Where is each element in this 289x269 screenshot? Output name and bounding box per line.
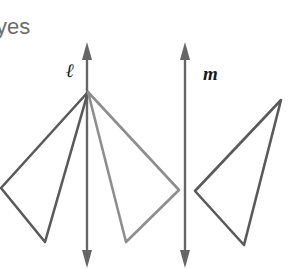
triangle-reflection-l bbox=[88, 92, 179, 242]
reflection-diagram: yes ℓ m bbox=[0, 0, 289, 269]
triangle-reflection-m bbox=[195, 100, 281, 245]
arrow-down-icon bbox=[180, 250, 190, 268]
arrow-up-icon bbox=[180, 42, 190, 60]
diagram-canvas bbox=[0, 0, 289, 269]
arrow-down-icon bbox=[82, 250, 92, 268]
line-l-label: ℓ bbox=[66, 60, 74, 82]
line-l bbox=[82, 42, 92, 268]
line-m bbox=[180, 42, 190, 268]
arrow-up-icon bbox=[82, 42, 92, 60]
line-m-label: m bbox=[203, 63, 218, 85]
triangle-original bbox=[1, 92, 88, 242]
